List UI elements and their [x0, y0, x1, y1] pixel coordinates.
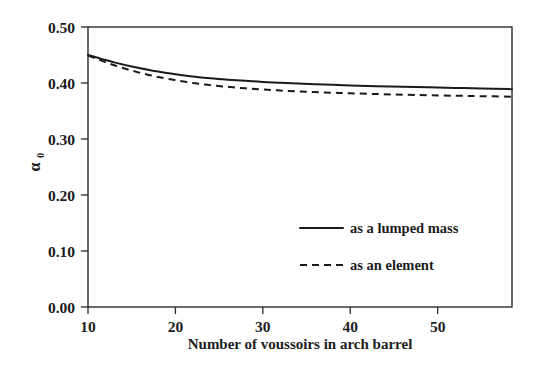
- x-axis-title: Number of voussoirs in arch barrel: [188, 336, 413, 352]
- series-line-element: [88, 56, 512, 97]
- chart-figure: 1020304050 0.000.100.200.300.400.50 as a…: [0, 0, 542, 380]
- x-tick-label: 20: [168, 318, 184, 335]
- x-tick-label: 10: [80, 318, 96, 335]
- y-tick-label: 0.40: [48, 75, 75, 92]
- line-chart: 1020304050 0.000.100.200.300.400.50 as a…: [0, 0, 542, 380]
- y-axis-title-subscript: 0: [35, 153, 46, 158]
- x-axis-tick-marks: [88, 307, 438, 314]
- y-tick-label: 0.20: [48, 187, 75, 204]
- y-axis-title: α 0: [26, 153, 46, 172]
- x-tick-label: 50: [430, 318, 446, 335]
- y-axis-title-symbol: α: [26, 162, 43, 171]
- y-tick-label: 0.30: [48, 131, 75, 148]
- y-axis-tick-labels: 0.000.100.200.300.400.50: [48, 19, 75, 316]
- y-tick-label: 0.10: [48, 243, 75, 260]
- chart-legend: as a lumped mass as an element: [300, 220, 459, 273]
- x-tick-label: 40: [343, 318, 359, 335]
- y-axis-tick-marks: [81, 27, 88, 307]
- x-axis-tick-labels: 1020304050: [80, 318, 445, 335]
- y-tick-label: 0.50: [48, 19, 75, 36]
- legend-label-element: as an element: [350, 257, 434, 273]
- y-tick-label: 0.00: [48, 299, 75, 316]
- legend-label-lumped-mass: as a lumped mass: [350, 220, 459, 236]
- series-line-lumped-mass: [88, 55, 512, 89]
- data-series-group: [88, 55, 512, 97]
- x-tick-label: 30: [255, 318, 271, 335]
